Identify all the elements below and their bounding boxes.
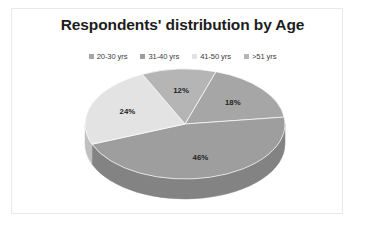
legend-swatch-icon xyxy=(89,54,94,59)
legend-swatch-icon xyxy=(192,54,197,59)
legend-item-41-50-yrs[interactable]: 41-50 yrs xyxy=(192,52,231,61)
legend-item-20-30-yrs[interactable]: 20-30 yrs xyxy=(89,52,128,61)
legend-item-31-40-yrs[interactable]: 31-40 yrs xyxy=(140,52,179,61)
legend-swatch-icon xyxy=(140,54,145,59)
legend-item-label: 41-50 yrs xyxy=(200,52,231,61)
legend-item-label: 31-40 yrs xyxy=(148,52,179,61)
legend-item-label: >51 yrs xyxy=(252,52,276,61)
chart-figure: Respondents' distribution by Age 20-30 y… xyxy=(0,0,365,225)
legend-item-label: 20-30 yrs xyxy=(97,52,128,61)
chart-legend: 20-30 yrs 31-40 yrs 41-50 yrs >51 yrs xyxy=(0,52,365,61)
chart-frame xyxy=(11,8,343,214)
legend-item-over-51-yrs[interactable]: >51 yrs xyxy=(244,52,276,61)
legend-swatch-icon xyxy=(244,54,249,59)
chart-title: Respondents' distribution by Age xyxy=(0,16,365,34)
